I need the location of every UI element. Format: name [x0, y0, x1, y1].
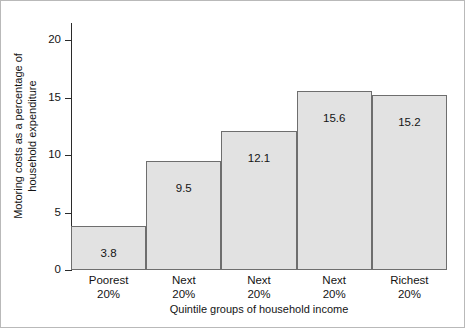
x-axis-category-label: Next20% — [297, 273, 372, 301]
y-axis-tick-label: 20 — [35, 34, 61, 46]
x-axis-category-label-line-2: 20% — [71, 287, 146, 301]
y-axis-tick-label: 15 — [35, 92, 61, 104]
x-axis-title: Quintile groups of household income — [71, 304, 447, 315]
x-axis-category-label-line-2: 20% — [146, 287, 221, 301]
x-axis-category-label-line-1: Poorest — [71, 273, 146, 287]
x-axis-category-label-line-2: 20% — [372, 287, 447, 301]
y-axis-tick-label: 0 — [35, 264, 61, 276]
y-axis-title-line-2: household expenditure — [25, 53, 39, 219]
chart-figure: Motoring costs as a percentage of househ… — [0, 0, 465, 328]
x-axis-category-label-line-2: 20% — [297, 287, 372, 301]
x-axis-category-label: Next20% — [221, 273, 296, 301]
bar — [146, 161, 221, 270]
y-axis-tick-label: 10 — [35, 149, 61, 161]
x-axis-category-label: Poorest20% — [71, 273, 146, 301]
bar-value-label: 15.2 — [372, 117, 447, 129]
bar-value-label: 12.1 — [221, 153, 296, 165]
y-axis-title-line-1: Motoring costs as a percentage of — [11, 53, 25, 219]
bar-value-label: 3.8 — [71, 248, 146, 260]
bar-value-label: 15.6 — [297, 113, 372, 125]
x-axis-category-label-line-1: Next — [221, 273, 296, 287]
x-axis-category-label-line-1: Next — [146, 273, 221, 287]
bar-value-label: 9.5 — [146, 183, 221, 195]
x-axis-category-label-line-2: 20% — [221, 287, 296, 301]
y-axis-tick-label: 5 — [35, 207, 61, 219]
x-axis-category-label-line-1: Richest — [372, 273, 447, 287]
x-axis-category-label: Next20% — [146, 273, 221, 301]
x-axis-category-label-line-1: Next — [297, 273, 372, 287]
x-axis-category-label: Richest20% — [372, 273, 447, 301]
y-axis-tick-mark — [65, 270, 72, 271]
plot-area: 3.89.512.115.615.2 — [71, 23, 447, 270]
